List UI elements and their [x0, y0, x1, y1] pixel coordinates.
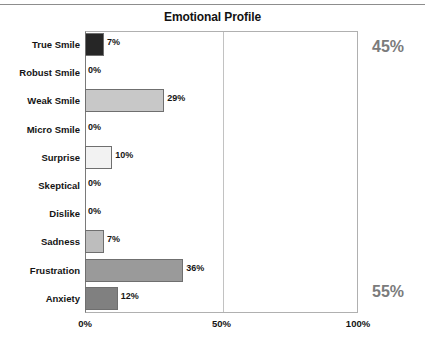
y-axis-label-robust-smile: Robust Smile	[0, 59, 80, 87]
bar-value-label: 0%	[88, 65, 101, 75]
bar-value-label: 0%	[88, 178, 101, 188]
y-axis-label-weak-smile: Weak Smile	[0, 87, 80, 115]
y-axis-category-labels: True SmileRobust SmileWeak SmileMicro Sm…	[0, 31, 80, 313]
bar-value-label: 7%	[107, 234, 120, 244]
bar-sadness[interactable]	[85, 230, 104, 253]
x-axis-tick-labels: 0%50%100%	[0, 318, 425, 338]
bar-band: 12%	[85, 285, 358, 313]
header-divider	[0, 4, 425, 5]
y-axis-label-sadness: Sadness	[0, 228, 80, 256]
bar-surprise[interactable]	[85, 146, 112, 169]
bar-band: 0%	[85, 59, 358, 87]
x-tick-100pct: 100%	[346, 318, 370, 329]
bar-band: 7%	[85, 31, 358, 59]
y-axis-label-frustration: Frustration	[0, 257, 80, 285]
bar-anxiety[interactable]	[85, 287, 118, 310]
bar-band: 7%	[85, 228, 358, 256]
bar-value-label: 0%	[88, 206, 101, 216]
y-axis-label-anxiety: Anxiety	[0, 285, 80, 313]
bar-band: 10%	[85, 144, 358, 172]
bar-band: 36%	[85, 257, 358, 285]
bar-value-label: 36%	[186, 263, 204, 273]
bar-band: 0%	[85, 116, 358, 144]
bar-series: 7%0%29%0%10%0%0%7%36%12%	[85, 31, 358, 313]
bar-band: 0%	[85, 172, 358, 200]
bar-value-label: 12%	[121, 291, 139, 301]
y-axis-label-micro-smile: Micro Smile	[0, 116, 80, 144]
bar-value-label: 7%	[107, 37, 120, 47]
bar-value-label: 29%	[167, 93, 185, 103]
y-axis-label-true-smile: True Smile	[0, 31, 80, 59]
y-axis-label-surprise: Surprise	[0, 144, 80, 172]
y-axis-label-skeptical: Skeptical	[0, 172, 80, 200]
bar-band: 0%	[85, 200, 358, 228]
bar-value-label: 0%	[88, 122, 101, 132]
annotation-negative-total: 55%	[372, 283, 404, 301]
chart-title: Emotional Profile	[0, 10, 425, 24]
y-axis-label-dislike: Dislike	[0, 200, 80, 228]
bar-frustration[interactable]	[85, 259, 183, 282]
x-tick-0pct: 0%	[78, 318, 92, 329]
x-tick-50pct: 50%	[212, 318, 231, 329]
bar-band: 29%	[85, 87, 358, 115]
bar-value-label: 10%	[115, 150, 133, 160]
annotation-positive-total: 45%	[372, 38, 404, 56]
bar-true-smile[interactable]	[85, 33, 104, 56]
bar-weak-smile[interactable]	[85, 89, 164, 112]
